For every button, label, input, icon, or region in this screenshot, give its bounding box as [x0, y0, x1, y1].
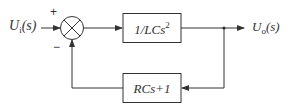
output-symbol: U: [252, 19, 261, 34]
block-diagram: Ui(s) + − 1/LCs2 RCs+1 Uo(s): [0, 0, 288, 108]
input-label: Ui(s): [9, 19, 36, 35]
forward-block-exponent: 2: [165, 20, 170, 30]
input-arg: (s): [22, 18, 37, 33]
output-arg: (s): [266, 19, 280, 34]
minus-sign: −: [53, 41, 60, 53]
forward-block-label: 1/LCs2: [123, 21, 181, 36]
feedback-block-label: RCs+1: [123, 82, 181, 95]
summing-junction: [61, 17, 84, 40]
output-label: Uo(s): [252, 20, 280, 36]
input-symbol: U: [9, 18, 19, 33]
plus-sign: +: [50, 6, 57, 18]
forward-block-text: 1/LCs: [134, 22, 165, 37]
feedback-path-right: [182, 28, 224, 88]
feedback-path-left: [72, 40, 123, 88]
